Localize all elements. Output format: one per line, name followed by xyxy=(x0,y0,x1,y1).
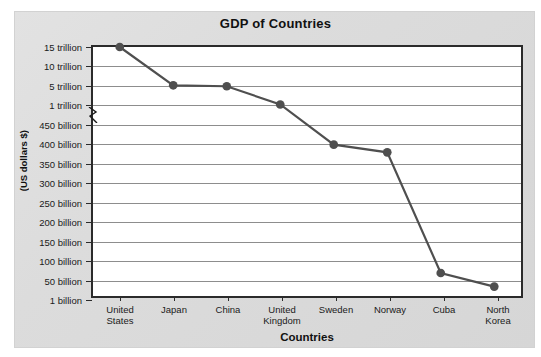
x-tick xyxy=(282,296,283,301)
y-tick xyxy=(86,300,92,301)
data-point: United Kingdom: 1 trillion xyxy=(276,100,285,109)
data-point: United States: 15 trillion xyxy=(115,43,124,52)
y-tick xyxy=(86,125,92,126)
x-tick-label: United xyxy=(89,304,151,315)
y-tick xyxy=(86,144,92,145)
x-tick xyxy=(336,296,337,301)
data-point: Norway: ~375 billion xyxy=(383,148,392,157)
x-tick-label: Cuba xyxy=(413,304,475,315)
series-markers: United States: 15 trillionJapan: 5 trill… xyxy=(115,43,498,291)
chart-title: GDP of Countries xyxy=(15,16,536,31)
y-tick-label: 1 trillion xyxy=(49,100,82,111)
plot-area: 15 trillion10 trillion5 trillion1 trilli… xyxy=(91,45,523,298)
y-tick xyxy=(86,183,92,184)
chart-figure: GDP of Countries (US dollars $) Countrie… xyxy=(0,0,541,357)
y-tick-label: 150 billion xyxy=(39,236,82,247)
y-tick-label: 50 billion xyxy=(45,275,83,286)
y-tick xyxy=(86,66,92,67)
y-tick xyxy=(86,164,92,165)
x-tick-label: States xyxy=(89,315,151,326)
x-tick-label-group: Sweden xyxy=(305,304,367,315)
y-tick-label: 15 trillion xyxy=(44,42,82,53)
chart-panel: GDP of Countries (US dollars $) Countrie… xyxy=(14,11,535,348)
x-tick-label: Japan xyxy=(143,304,205,315)
x-tick-label-group: Norway xyxy=(359,304,421,315)
x-tick-label-group: UnitedKingdom xyxy=(251,304,313,326)
x-tick-label: North xyxy=(467,304,529,315)
data-point: China: ~4.8 trillion xyxy=(222,82,231,91)
x-tick-label-group: UnitedStates xyxy=(89,304,151,326)
x-tick-label: United xyxy=(251,304,313,315)
x-axis-title: Countries xyxy=(91,331,523,343)
y-tick-label: 10 trillion xyxy=(44,61,82,72)
x-tick-label: Korea xyxy=(467,315,529,326)
y-tick xyxy=(86,203,92,204)
x-tick xyxy=(120,296,121,301)
y-tick xyxy=(86,47,92,48)
y-axis-title: (US dollars $) xyxy=(18,130,32,191)
y-tick xyxy=(86,261,92,262)
y-tick xyxy=(86,281,92,282)
x-tick-label-group: China xyxy=(197,304,259,315)
x-tick xyxy=(228,296,229,301)
x-tick-label: Kingdom xyxy=(251,315,313,326)
x-tick-label: Sweden xyxy=(305,304,367,315)
data-point: Cuba: ~60 billion xyxy=(436,269,445,278)
x-tick-label-group: Japan xyxy=(143,304,205,315)
x-tick-label: Norway xyxy=(359,304,421,315)
x-tick-label-group: NorthKorea xyxy=(467,304,529,326)
x-tick xyxy=(390,296,391,301)
y-tick-label: 200 billion xyxy=(39,217,82,228)
y-tick-label: 100 billion xyxy=(39,256,82,267)
y-tick-label: 5 trillion xyxy=(49,80,82,91)
y-tick-label: 250 billion xyxy=(39,197,82,208)
x-tick xyxy=(444,296,445,301)
data-series: United States: 15 trillionJapan: 5 trill… xyxy=(93,47,521,296)
y-tick xyxy=(86,86,92,87)
data-point: North Korea: ~25 billion xyxy=(490,282,499,291)
y-tick-label: 1 billion xyxy=(50,295,82,306)
y-tick xyxy=(86,242,92,243)
x-tick xyxy=(174,296,175,301)
y-tick-label: 350 billion xyxy=(39,158,82,169)
y-tick xyxy=(86,222,92,223)
y-tick-label: 400 billion xyxy=(39,139,82,150)
x-tick-label: China xyxy=(197,304,259,315)
x-tick xyxy=(498,296,499,301)
y-tick-label: 450 billion xyxy=(39,119,82,130)
y-tick-label: 300 billion xyxy=(39,178,82,189)
x-tick-label-group: Cuba xyxy=(413,304,475,315)
data-point: Sweden: ~395 billion xyxy=(329,140,338,149)
data-point: Japan: 5 trillion xyxy=(169,81,178,90)
